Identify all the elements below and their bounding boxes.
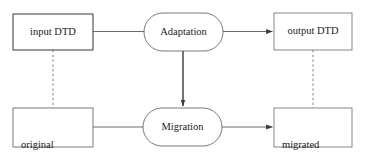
node-shape-input-dtd xyxy=(13,14,93,50)
diagram-canvas: input DTD Adaptation output DTD original… xyxy=(0,0,365,156)
node-shape-adaptation xyxy=(144,13,223,51)
node-shape-original-document xyxy=(13,108,93,147)
node-shape-output-dtd xyxy=(274,13,352,50)
node-shape-migrated-document xyxy=(274,108,352,147)
node-shape-migration xyxy=(143,108,222,146)
diagram-graphics xyxy=(0,0,365,156)
